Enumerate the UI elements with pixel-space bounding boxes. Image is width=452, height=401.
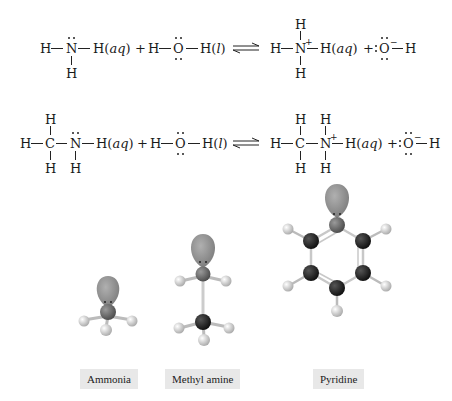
hydrogen-atom [283,224,294,235]
atom-c: C [295,137,305,150]
plus-sign: + [135,42,146,55]
bond [281,48,293,49]
positive-charge: + [305,37,313,47]
hydrogen-atom [174,323,185,334]
label-ammonia: Ammonia [80,369,138,389]
carbon-atom [195,314,211,330]
carbon-atom [355,265,371,281]
atom-h: H [66,67,77,80]
hydrogen-atom [221,276,232,287]
hydrogen-atom [79,316,90,327]
bond [186,48,198,49]
plus-sign: + [363,42,374,55]
atom-h: H(l) [200,42,226,55]
nitrogen-atom [196,267,211,282]
bond [300,31,301,40]
equilibrium-arrow-icon [232,42,260,54]
bond [75,151,76,160]
label-pyridine: Pyridine [313,369,364,389]
hydrogen-atom [381,224,392,235]
lone-pair-dot [386,37,388,39]
atom-h: H [148,42,159,55]
atom-h: H(aq) [96,137,134,150]
carbon-atom [355,233,371,249]
atom-h: H [320,162,331,175]
lone-pair-dot [410,132,412,134]
atom-h: H [70,162,81,175]
atom-h: H [270,42,281,55]
lone-pair-dot [68,37,70,39]
bond [71,56,72,65]
bond [51,48,63,49]
atom-h: H [295,113,306,126]
bond [300,151,301,160]
hydrogen-atom [283,281,294,292]
bond [50,126,51,135]
ammonia-model [79,276,138,336]
bond [281,143,293,144]
atom-o: O [379,42,390,55]
methyl-amine-model [174,234,235,346]
atom-h: H [295,18,306,31]
lone-pair-dot [405,132,407,134]
hydrogen-atom [381,281,392,292]
atom-o: O [403,137,414,150]
atom-h: H [429,137,440,150]
label-methyl-amine: Methyl amine [165,369,240,389]
atom-h: H(aq) [320,42,358,55]
lone-pair-dot [405,153,407,155]
bond [50,151,51,160]
lone-pair-dot [177,132,179,134]
bond [325,126,326,135]
lone-pair-dot [386,58,388,60]
bond [31,143,43,144]
negative-charge: − [390,37,398,47]
atom-h: H [295,67,306,80]
lone-pair-lobe [97,276,120,308]
atom-h: H(l) [202,137,228,150]
lone-pair-dot [175,58,177,60]
lone-pair-dot [399,145,401,147]
lone-pair-dot [180,37,182,39]
lone-pair-dot [381,58,383,60]
atom-h: H [20,137,31,150]
molecular-models [0,180,452,370]
hydrogen-atom [331,305,343,317]
lone-pair-dot [375,50,377,52]
carbon-atom [329,280,345,296]
atom-h: H [270,137,281,150]
bond [416,143,427,144]
lone-pair-dot [410,153,412,155]
lone-pair-dot [177,153,179,155]
atom-h: H [320,113,331,126]
bond [392,48,403,49]
atom-h: H [150,137,161,150]
lone-pair-dot [182,153,184,155]
positive-charge: + [330,132,338,142]
lone-pair-dot [375,45,377,47]
bond [332,143,343,144]
negative-charge: − [414,132,422,142]
atom-n: N [70,137,81,150]
carbon-atom [303,233,319,249]
bond [300,126,301,135]
atom-n: N [66,42,77,55]
nitrogen-atom [329,217,345,233]
hydrogen-atom [198,334,210,346]
lone-pair-dot [72,132,74,134]
lone-pair-dot [175,37,177,39]
bond [188,143,200,144]
lone-pair-lobe [191,234,215,268]
bond [159,48,171,49]
lone-pair-dot [182,132,184,134]
bond [300,56,301,65]
atom-o: O [175,137,186,150]
hydrogen-atom [224,323,235,334]
bond [78,48,90,49]
atom-h: H [45,162,56,175]
atom-h: H [40,42,51,55]
lone-pair-dot [77,132,79,134]
plus-sign: + [387,137,398,150]
bond [307,48,318,49]
lone-pair-dot [399,140,401,142]
